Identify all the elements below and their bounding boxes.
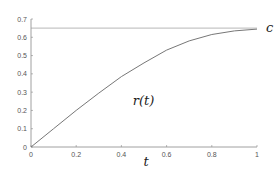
y-tick-label: 0 [23,144,27,151]
y-tick-label: 0.6 [17,34,27,41]
x-tick-label: 0.2 [71,151,81,158]
x-tick-label: 0.4 [117,151,127,158]
y-tick-label: 0.2 [17,107,27,114]
x-tick-label: 0 [29,151,33,158]
y-tick-label: 0.1 [17,125,27,132]
x-tick-label: 0.6 [162,151,172,158]
x-axis-label: t [143,154,149,169]
y-tick-label: 0.5 [17,52,27,59]
series-group [31,28,257,147]
y-tick-label: 0.7 [17,16,27,23]
line-chart: 00.20.40.60.8100.10.20.30.40.50.60.7 r(t… [0,0,274,175]
x-tick-label: 1 [255,151,259,158]
y-tick-label: 0.4 [17,70,27,77]
x-tick-label: 0.8 [207,151,217,158]
y-tick-label: 0.3 [17,89,27,96]
c-label: c [266,20,274,35]
axes: 00.20.40.60.8100.10.20.30.40.50.60.7 [17,16,259,159]
r-curve [31,29,257,147]
r-of-t-label: r(t) [133,93,155,108]
